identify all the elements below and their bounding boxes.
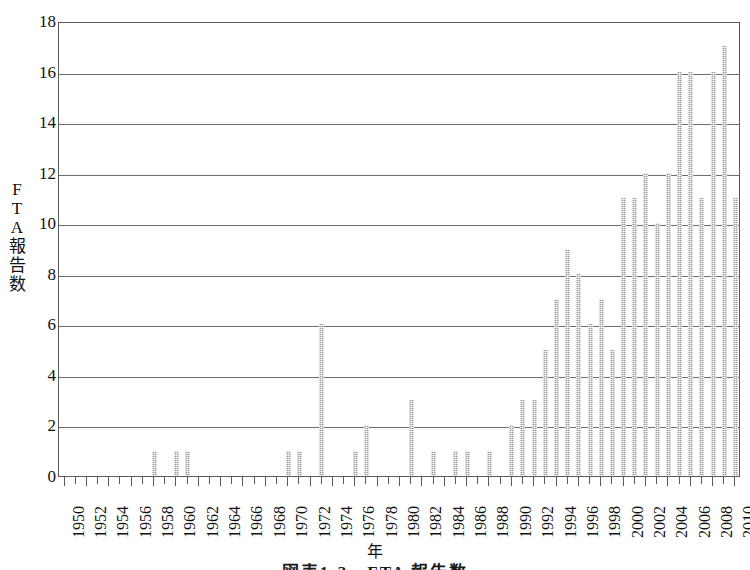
x-axis-tick-label: 1986	[473, 486, 489, 538]
x-axis-tick-mark	[119, 477, 120, 484]
x-axis-tick-mark	[567, 477, 568, 484]
y-axis-tick-label: 6	[26, 315, 56, 335]
bar	[453, 451, 458, 476]
x-axis-tick-label: 1962	[205, 486, 221, 538]
bar	[520, 400, 525, 476]
x-axis-tick-mark	[589, 477, 590, 484]
x-axis-tick-label: 1952	[93, 486, 109, 538]
x-axis-tick-mark	[656, 477, 657, 484]
x-axis-tick-label: 1954	[115, 486, 131, 538]
bar	[509, 425, 514, 476]
bar	[733, 198, 738, 476]
y-axis-tick-label: 0	[26, 467, 56, 487]
y-axis-tick-label: 16	[26, 63, 56, 83]
x-axis-tick-label: 1974	[339, 486, 355, 538]
x-axis-tick-mark	[75, 477, 76, 484]
x-axis-tick-label: 2000	[630, 486, 646, 538]
x-axis-tick-label: 1968	[272, 486, 288, 538]
bar	[632, 198, 637, 476]
bar	[655, 223, 660, 476]
x-axis-tick-mark	[634, 477, 635, 484]
x-axis-tick-label: 1978	[384, 486, 400, 538]
x-axis-tick-label: 1980	[406, 486, 422, 538]
x-axis-tick-mark	[522, 477, 523, 484]
y-axis-tick-label: 10	[26, 214, 56, 234]
bar	[711, 72, 716, 476]
bar	[722, 46, 727, 476]
bar	[588, 324, 593, 476]
x-axis-tick-label: 1956	[138, 486, 154, 538]
x-axis-tick-mark	[421, 477, 422, 486]
bar	[677, 72, 682, 476]
x-axis-tick-mark	[153, 477, 154, 486]
x-axis-tick-mark	[310, 477, 311, 486]
y-axis-tick-label: 8	[26, 265, 56, 285]
x-axis-tick-mark	[533, 477, 534, 486]
x-axis-tick-label: 2006	[697, 486, 713, 538]
figure-caption: 図表1-3 FTA 報告数	[0, 558, 750, 570]
x-axis-tick-mark	[667, 477, 668, 486]
bar	[409, 400, 414, 476]
x-axis-tick-label: 1970	[294, 486, 310, 538]
x-axis-tick-mark	[690, 477, 691, 486]
bar	[643, 173, 648, 476]
x-axis-tick-mark	[433, 477, 434, 484]
x-axis-tick-mark	[488, 477, 489, 486]
x-axis-tick-marks	[58, 477, 740, 486]
bar	[465, 451, 470, 476]
x-axis-tick-mark	[242, 477, 243, 486]
y-axis-tick-label: 14	[26, 113, 56, 133]
x-axis-tick-mark	[64, 477, 65, 486]
x-axis-tick-label: 1972	[317, 486, 333, 538]
bar	[174, 451, 179, 476]
bar	[286, 451, 291, 476]
bar	[699, 198, 704, 476]
plot-area	[58, 22, 740, 477]
x-axis-tick-mark	[198, 477, 199, 486]
bar	[610, 350, 615, 476]
x-axis-tick-label: 1992	[540, 486, 556, 538]
x-axis-tick-mark	[578, 477, 579, 486]
x-axis-tick-label: 1982	[428, 486, 444, 538]
x-axis-tick-mark	[500, 477, 501, 484]
x-axis-tick-mark	[108, 477, 109, 486]
x-axis-tick-mark	[187, 477, 188, 484]
x-axis-tick-mark	[679, 477, 680, 484]
y-axis-tick-label: 4	[26, 366, 56, 386]
fta-report-count-bar-chart: FTA報告数 024681012141618 19501952195419561…	[0, 0, 750, 570]
bar	[152, 451, 157, 476]
x-axis-tick-mark	[645, 477, 646, 486]
x-axis-tick-mark	[164, 477, 165, 484]
x-axis-tick-mark	[511, 477, 512, 486]
x-axis-tick-mark	[231, 477, 232, 484]
y-axis-tick-label: 12	[26, 164, 56, 184]
x-axis-tick-label: 1960	[182, 486, 198, 538]
x-axis-tick-label: 1990	[518, 486, 534, 538]
bar	[621, 198, 626, 476]
y-axis-tick-label: 2	[26, 416, 56, 436]
x-axis-tick-mark	[142, 477, 143, 484]
x-axis-tick-mark	[712, 477, 713, 486]
x-axis-tick-label: 1964	[227, 486, 243, 538]
x-axis-tick-mark	[343, 477, 344, 484]
x-axis-tick-label: 1998	[607, 486, 623, 538]
bar	[532, 400, 537, 476]
bar-series	[59, 23, 739, 476]
y-axis-tick-label: 18	[26, 12, 56, 32]
bar	[431, 451, 436, 476]
bar	[353, 451, 358, 476]
x-axis-tick-mark	[623, 477, 624, 486]
x-axis-tick-mark	[265, 477, 266, 486]
x-axis-tick-mark	[354, 477, 355, 486]
x-axis-tick-mark	[276, 477, 277, 484]
x-axis-tick-mark	[97, 477, 98, 484]
x-axis-tick-label: 1988	[495, 486, 511, 538]
x-axis-tick-mark	[600, 477, 601, 486]
bar	[565, 249, 570, 477]
bar	[554, 299, 559, 476]
x-axis-tick-mark	[298, 477, 299, 484]
x-axis-tick-mark	[399, 477, 400, 486]
bar	[543, 350, 548, 476]
x-axis-tick-label: 1950	[71, 486, 87, 538]
x-axis-tick-mark	[701, 477, 702, 484]
